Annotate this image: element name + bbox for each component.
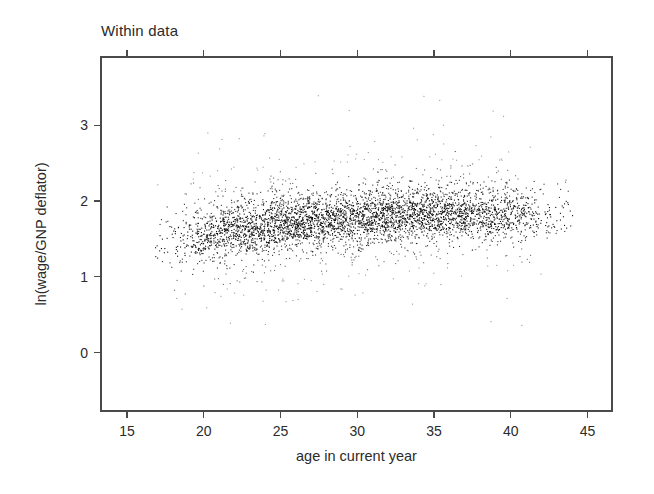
data-point xyxy=(276,242,277,243)
data-point xyxy=(358,273,359,274)
data-point xyxy=(412,242,413,243)
data-point xyxy=(299,222,300,223)
data-point xyxy=(470,200,471,201)
data-point xyxy=(207,132,208,133)
data-point xyxy=(210,259,211,260)
data-point xyxy=(433,202,434,203)
data-point xyxy=(399,207,400,208)
data-point xyxy=(536,231,537,232)
data-point xyxy=(340,208,341,209)
data-point xyxy=(453,235,454,236)
data-point xyxy=(366,224,367,225)
data-point xyxy=(383,234,384,235)
data-point xyxy=(435,207,436,208)
data-point xyxy=(334,205,335,206)
data-point xyxy=(430,203,431,204)
data-point xyxy=(271,234,272,235)
data-point xyxy=(385,206,386,207)
data-point xyxy=(430,220,431,221)
data-point xyxy=(379,180,380,181)
data-point xyxy=(265,212,266,213)
data-point xyxy=(270,209,271,210)
data-point xyxy=(515,225,516,226)
data-point xyxy=(305,238,306,239)
data-point xyxy=(157,245,158,246)
data-point xyxy=(300,223,301,224)
data-point xyxy=(455,151,456,152)
data-point xyxy=(429,156,430,157)
data-point xyxy=(314,226,315,227)
data-point xyxy=(436,180,437,181)
data-point xyxy=(184,253,185,254)
data-point xyxy=(484,240,485,241)
data-point xyxy=(331,210,332,211)
data-point xyxy=(314,232,315,233)
data-point xyxy=(345,211,346,212)
data-point xyxy=(447,211,448,212)
data-point xyxy=(252,240,253,241)
data-point xyxy=(337,206,338,207)
data-point xyxy=(443,194,444,195)
data-point xyxy=(429,228,430,229)
data-point xyxy=(345,231,346,232)
data-point xyxy=(423,218,424,219)
data-point xyxy=(382,169,383,170)
data-point xyxy=(231,213,232,214)
data-point xyxy=(462,231,463,232)
data-point xyxy=(335,216,336,217)
data-point xyxy=(237,206,238,207)
data-point xyxy=(449,246,450,247)
data-point xyxy=(383,215,384,216)
data-point xyxy=(494,209,495,210)
data-point xyxy=(549,210,550,211)
data-point xyxy=(382,162,383,163)
data-point xyxy=(394,222,395,223)
data-point xyxy=(314,204,315,205)
data-point xyxy=(462,189,463,190)
data-point xyxy=(364,203,365,204)
data-point xyxy=(195,253,196,254)
data-point xyxy=(493,238,494,239)
data-point xyxy=(201,253,202,254)
data-point xyxy=(371,216,372,217)
data-point xyxy=(378,159,379,160)
data-point xyxy=(174,290,175,291)
data-point xyxy=(441,177,442,178)
data-point xyxy=(303,227,304,228)
data-point xyxy=(343,195,344,196)
data-point xyxy=(442,210,443,211)
data-point xyxy=(372,216,373,217)
data-point xyxy=(371,220,372,221)
data-point xyxy=(320,263,321,264)
data-point xyxy=(235,211,236,212)
data-point xyxy=(426,207,427,208)
data-point xyxy=(232,212,233,213)
data-point xyxy=(498,213,499,214)
data-point xyxy=(446,228,447,229)
data-point xyxy=(310,230,311,231)
data-point xyxy=(311,234,312,235)
data-point xyxy=(222,230,223,231)
data-point xyxy=(206,307,207,308)
data-point xyxy=(229,240,230,241)
data-point xyxy=(277,201,278,202)
data-point xyxy=(461,228,462,229)
data-point xyxy=(254,216,255,217)
data-point xyxy=(530,147,531,148)
data-point xyxy=(481,192,482,193)
data-point xyxy=(438,201,439,202)
data-point xyxy=(206,235,207,236)
data-point xyxy=(326,208,327,209)
data-point xyxy=(338,253,339,254)
data-point xyxy=(332,218,333,219)
data-point xyxy=(286,245,287,246)
data-point xyxy=(193,183,194,184)
data-point xyxy=(261,230,262,231)
data-point xyxy=(237,225,238,226)
data-point xyxy=(506,197,507,198)
axis-ticks-layer: 152025303540450123 xyxy=(80,50,595,439)
data-point xyxy=(349,221,350,222)
data-point xyxy=(402,223,403,224)
data-point xyxy=(393,177,394,178)
data-point xyxy=(325,221,326,222)
